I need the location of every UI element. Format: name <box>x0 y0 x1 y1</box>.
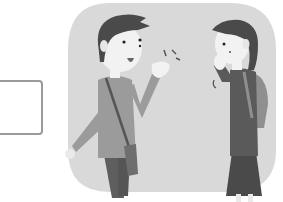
greeting-illustration <box>0 0 283 202</box>
